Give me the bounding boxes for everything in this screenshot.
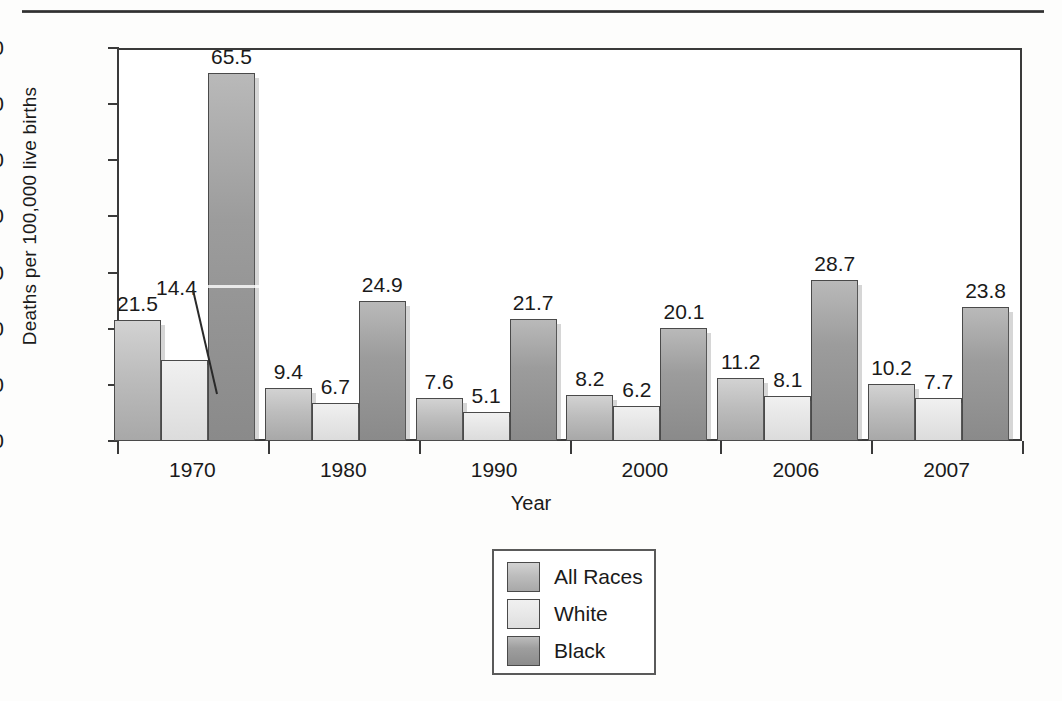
legend-entry: All Races	[507, 562, 643, 592]
y-axis-tick-label: 70	[0, 37, 4, 58]
x-axis-tick-mark	[419, 441, 421, 454]
x-axis-tick-mark	[117, 441, 119, 454]
y-axis-tick-label: 50	[0, 149, 4, 170]
y-axis-tick-label: 40	[0, 205, 4, 226]
x-axis-title: Year	[0, 492, 1062, 515]
x-axis-tick-label-2000: 2000	[565, 458, 725, 482]
scan-artifact	[206, 285, 276, 288]
x-axis-tick-label-1990: 1990	[414, 458, 574, 482]
legend-swatch-white	[507, 599, 540, 629]
x-axis-tick-label-1980: 1980	[263, 458, 423, 482]
y-axis-tick-label: 20	[0, 318, 4, 339]
y-axis-tick-label: 30	[0, 262, 4, 283]
y-axis-tick-label: 60	[0, 93, 4, 114]
x-axis-tick-mark	[570, 441, 572, 454]
chart-legend: All Races White Black	[492, 549, 656, 675]
legend-entry: Black	[507, 636, 605, 666]
bar-chart-figure: Deaths per 100,000 live births 010203040…	[0, 0, 1062, 701]
x-axis-tick-label-2006: 2006	[716, 458, 876, 482]
legend-label-black: Black	[554, 639, 605, 663]
legend-label-white: White	[554, 602, 608, 626]
y-axis-tick-label: 10	[0, 374, 4, 395]
y-axis-tick-label: 0	[0, 430, 4, 451]
x-axis-tick-mark	[871, 441, 873, 454]
x-axis-tick-label-2007: 2007	[867, 458, 1027, 482]
legend-entry: White	[507, 599, 608, 629]
y-axis-title: Deaths per 100,000 live births	[19, 36, 41, 396]
callout-leader-line	[117, 48, 1022, 441]
chart-page: Deaths per 100,000 live births 010203040…	[0, 0, 1062, 701]
legend-swatch-all-races	[507, 562, 540, 592]
x-axis-tick-mark	[268, 441, 270, 454]
x-axis-tick-mark	[720, 441, 722, 454]
legend-swatch-black	[507, 636, 540, 666]
legend-label-all-races: All Races	[554, 565, 643, 589]
x-axis-tick-label-1970: 1970	[112, 458, 272, 482]
x-axis-tick-mark	[1022, 441, 1024, 454]
